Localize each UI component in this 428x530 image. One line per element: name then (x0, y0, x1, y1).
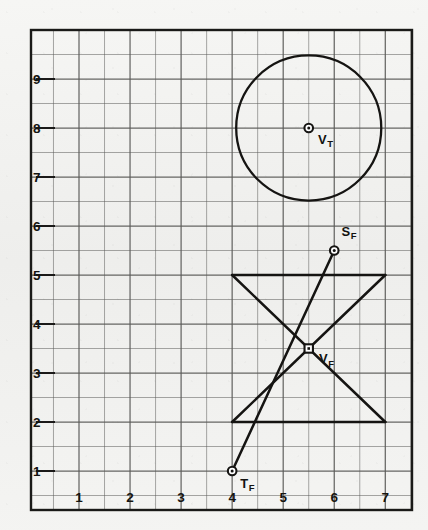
x-tick-label-4: 4 (228, 490, 236, 505)
y-axis-tick-labels: 123456789 (33, 72, 41, 479)
point-subscript-SF: F (351, 230, 357, 241)
x-tick-label-6: 6 (330, 490, 338, 505)
point-label-VF: VF (319, 351, 334, 368)
y-tick-label-8: 8 (33, 121, 41, 136)
x-tick-label-2: 2 (126, 490, 134, 505)
x-axis-tick-labels: 1234567 (75, 490, 389, 505)
marker-center-dot-VT (307, 127, 310, 130)
point-label-VT: VT (318, 132, 333, 149)
technical-drawing-figure: 1234567 123456789 VTSFVFTF (0, 0, 428, 530)
x-tick-label-1: 1 (75, 490, 83, 505)
marker-center-dot-SF (333, 249, 336, 252)
drawing-canvas: 1234567 123456789 VTSFVFTF (0, 0, 428, 530)
y-tick-label-4: 4 (33, 317, 41, 332)
major-gridlines (31, 30, 412, 510)
point-subscript-TF: F (249, 482, 255, 493)
point-label-TF: TF (240, 476, 255, 493)
y-tick-label-9: 9 (33, 72, 41, 87)
minor-gridlines (31, 30, 412, 510)
y-tick-label-1: 1 (33, 464, 41, 479)
y-tick-label-3: 3 (33, 366, 41, 381)
point-subscript-VT: T (327, 138, 333, 149)
marker-center-dot-TF (231, 470, 234, 473)
x-tick-label-5: 5 (279, 490, 287, 505)
marker-center-dot-VF (307, 347, 310, 350)
y-tick-label-6: 6 (33, 219, 41, 234)
plot-border (31, 30, 412, 510)
y-tick-label-5: 5 (33, 268, 41, 283)
y-tick-label-7: 7 (33, 170, 41, 185)
x-tick-label-3: 3 (177, 490, 185, 505)
point-subscript-VF: F (328, 358, 334, 369)
y-tick-label-2: 2 (33, 415, 41, 430)
x-tick-label-7: 7 (382, 490, 390, 505)
